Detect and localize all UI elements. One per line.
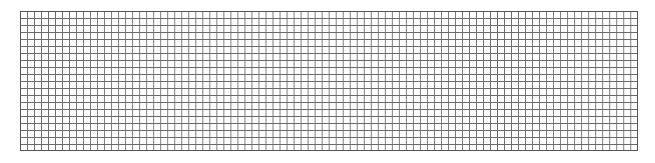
grid-paper — [20, 11, 638, 151]
